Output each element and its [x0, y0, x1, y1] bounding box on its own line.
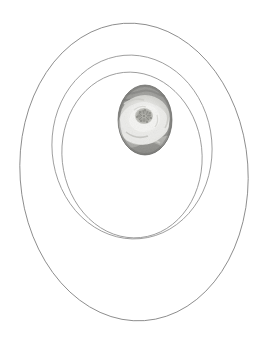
oval-frame-illustration: [0, 0, 264, 342]
page-background: [0, 0, 264, 342]
artboard: Concentric oval frame with flower vignet…: [0, 0, 264, 342]
